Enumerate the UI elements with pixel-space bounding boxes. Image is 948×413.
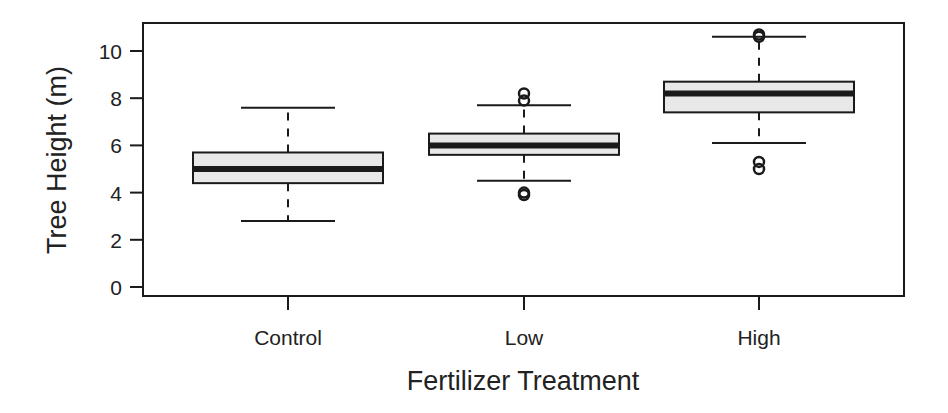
y-tick-label: 8 [110,87,122,110]
y-axis: 0246810 [99,40,143,299]
box-low [429,88,619,199]
outlier-point [519,88,529,98]
box-high [664,29,854,174]
box-plot: 0246810 ControlLowHigh Tree Height (m) F… [0,0,948,413]
x-axis: ControlLowHigh [254,296,780,349]
outlier-point [754,157,764,167]
x-tick-label: High [737,326,780,349]
x-axis-title: Fertilizer Treatment [407,366,640,396]
iqr-box [664,82,854,113]
boxes [193,29,854,220]
y-tick-label: 6 [110,134,122,157]
y-tick-label: 10 [99,40,122,63]
y-tick-label: 2 [110,229,122,252]
x-tick-label: Low [505,326,544,349]
y-axis-title: Tree Height (m) [42,66,72,254]
y-tick-label: 0 [110,276,122,299]
box-control [193,108,383,221]
y-tick-label: 4 [110,182,122,205]
x-tick-label: Control [254,326,322,349]
